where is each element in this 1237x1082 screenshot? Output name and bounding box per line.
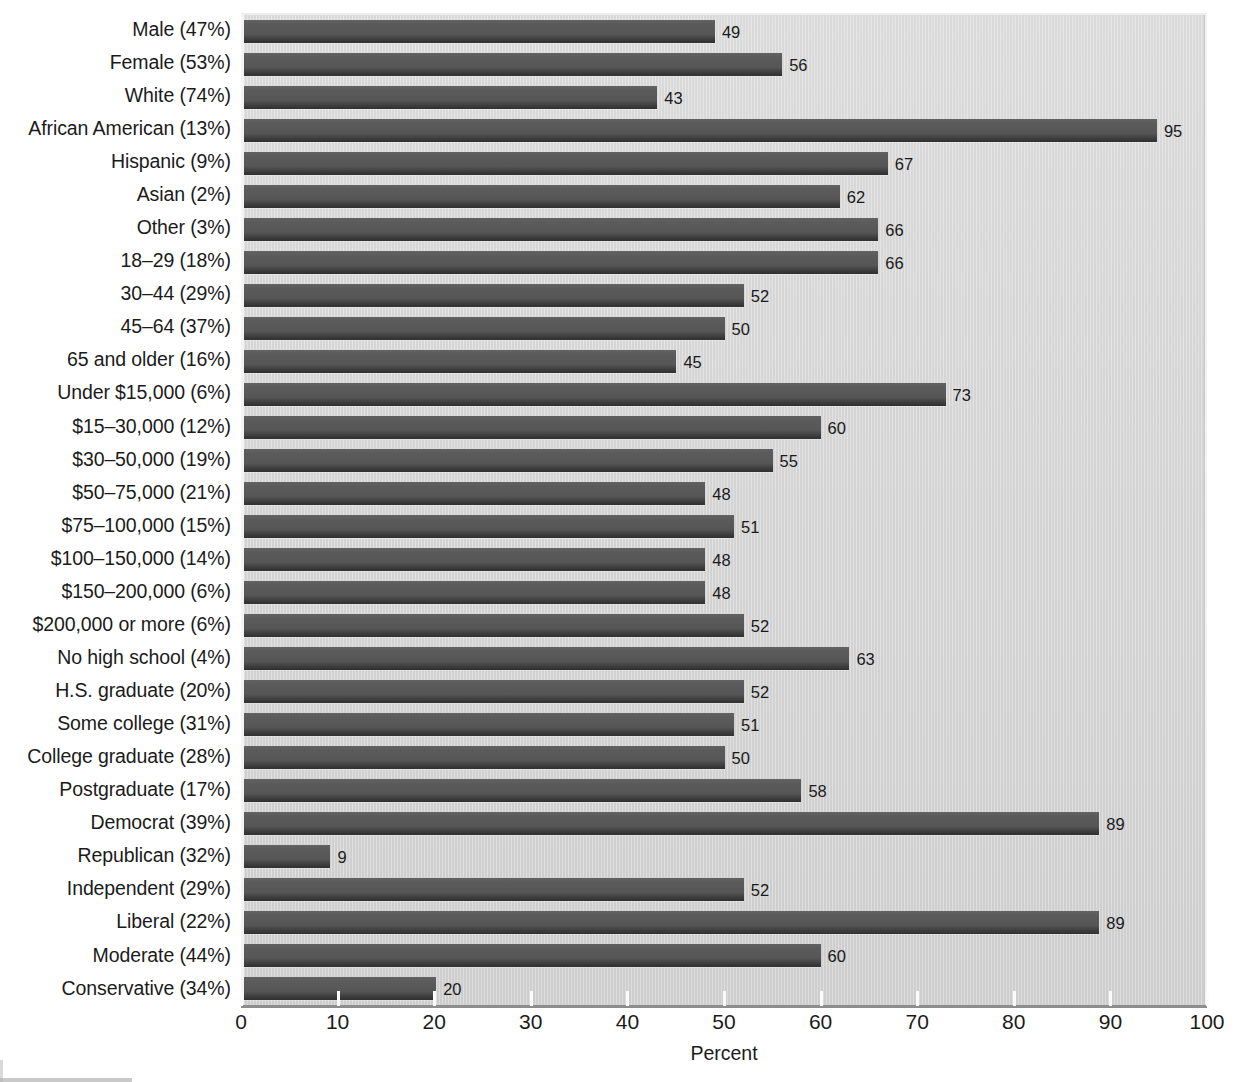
- bar-row: 60: [244, 939, 1205, 972]
- category-label: Independent (29%): [0, 873, 237, 906]
- bar: 63: [244, 647, 849, 670]
- bar-row: 66: [244, 246, 1205, 279]
- bar: 45: [244, 350, 676, 373]
- category-label: No high school (4%): [0, 641, 237, 674]
- x-axis-tick: [1206, 991, 1209, 1006]
- category-label: 45–64 (37%): [0, 311, 237, 344]
- bar-row: 50: [244, 312, 1205, 345]
- bar-row: 52: [244, 279, 1205, 312]
- bar-row: 55: [244, 444, 1205, 477]
- x-axis-tick: [1013, 991, 1016, 1006]
- bar-value-label: 89: [1106, 914, 1124, 931]
- category-label: White (74%): [0, 79, 237, 112]
- bars-layer: 4956439567626666525045736055485148485263…: [244, 15, 1205, 1005]
- x-axis-tick: [723, 991, 726, 1006]
- bar-row: 45: [244, 345, 1205, 378]
- x-axis-tick: [433, 991, 436, 1006]
- category-label: $100–150,000 (14%): [0, 542, 237, 575]
- bar: 62: [244, 185, 840, 208]
- category-label: College graduate (28%): [0, 740, 237, 773]
- bar: 60: [244, 944, 821, 967]
- bar: 66: [244, 218, 878, 241]
- bar-row: 49: [244, 15, 1205, 48]
- bar-row: 48: [244, 576, 1205, 609]
- x-axis-tick-label: 80: [1002, 1010, 1025, 1034]
- category-label: $200,000 or more (6%): [0, 608, 237, 641]
- bar: 60: [244, 416, 821, 439]
- bar-row: 50: [244, 741, 1205, 774]
- category-label: $150–200,000 (6%): [0, 575, 237, 608]
- bar-value-label: 60: [828, 419, 846, 436]
- bar-row: 60: [244, 411, 1205, 444]
- x-axis-tick-label: 90: [1099, 1010, 1122, 1034]
- bar-row: 73: [244, 378, 1205, 411]
- category-label: 65 and older (16%): [0, 344, 237, 377]
- bar-value-label: 58: [808, 782, 826, 799]
- category-label: Some college (31%): [0, 707, 237, 740]
- bar: 58: [244, 779, 801, 802]
- bar: 52: [244, 878, 744, 901]
- bar-row: 48: [244, 543, 1205, 576]
- bar: 51: [244, 515, 734, 538]
- bar-row: 89: [244, 906, 1205, 939]
- bar-row: 56: [244, 48, 1205, 81]
- x-axis-tick-label: 60: [809, 1010, 832, 1034]
- bar-value-label: 52: [751, 287, 769, 304]
- bar-value-label: 9: [337, 848, 346, 865]
- bar-value-label: 73: [953, 386, 971, 403]
- bar: 55: [244, 449, 773, 472]
- category-label: $30–50,000 (19%): [0, 443, 237, 476]
- x-axis-tick-label: 50: [712, 1010, 735, 1034]
- x-axis-tick-labels: 0102030405060708090100: [241, 1010, 1207, 1040]
- category-label: Moderate (44%): [0, 939, 237, 972]
- bar-value-label: 55: [780, 452, 798, 469]
- bar-value-label: 95: [1164, 122, 1182, 139]
- bar: 48: [244, 482, 705, 505]
- category-label: Other (3%): [0, 211, 237, 244]
- bar-value-label: 51: [741, 518, 759, 535]
- bar-value-label: 89: [1106, 815, 1124, 832]
- x-axis-ticks: [241, 991, 1207, 1006]
- bar: 89: [244, 911, 1099, 934]
- x-axis-tick: [530, 991, 533, 1006]
- bar-value-label: 49: [722, 23, 740, 40]
- bar: 56: [244, 53, 782, 76]
- x-axis-title: Percent: [241, 1044, 1207, 1064]
- bar: 9: [244, 845, 330, 868]
- bar-row: 51: [244, 708, 1205, 741]
- bar-row: 58: [244, 774, 1205, 807]
- category-label: Republican (32%): [0, 840, 237, 873]
- scan-edge-artifact: [0, 1078, 132, 1082]
- category-label: 30–44 (29%): [0, 278, 237, 311]
- bar-value-label: 52: [751, 617, 769, 634]
- bar-value-label: 67: [895, 155, 913, 172]
- bar-value-label: 52: [751, 881, 769, 898]
- x-axis-tick: [337, 991, 340, 1006]
- x-axis-tick: [820, 991, 823, 1006]
- category-label: African American (13%): [0, 112, 237, 145]
- x-axis-tick-label: 10: [326, 1010, 349, 1034]
- x-axis-tick-label: 70: [906, 1010, 929, 1034]
- scan-edge-artifact-left: [0, 1060, 3, 1082]
- bar-value-label: 60: [828, 947, 846, 964]
- bar-value-label: 66: [885, 221, 903, 238]
- bar: 52: [244, 680, 744, 703]
- bar: 89: [244, 812, 1099, 835]
- category-label: Female (53%): [0, 46, 237, 79]
- x-axis-tick-label: 0: [235, 1010, 247, 1034]
- x-axis-tick-label: 20: [423, 1010, 446, 1034]
- category-label: Asian (2%): [0, 178, 237, 211]
- bar: 48: [244, 548, 705, 571]
- bar-value-label: 66: [885, 254, 903, 271]
- bar-value-label: 63: [856, 650, 874, 667]
- bar-row: 52: [244, 873, 1205, 906]
- plot-area: 4956439567626666525045736055485148485263…: [241, 13, 1207, 1005]
- bar: 50: [244, 317, 725, 340]
- bar-row: 63: [244, 642, 1205, 675]
- category-label: 18–29 (18%): [0, 244, 237, 277]
- bar-row: 48: [244, 477, 1205, 510]
- bar-row: 89: [244, 807, 1205, 840]
- bar-value-label: 62: [847, 188, 865, 205]
- bar: 73: [244, 383, 946, 406]
- category-label: Under $15,000 (6%): [0, 377, 237, 410]
